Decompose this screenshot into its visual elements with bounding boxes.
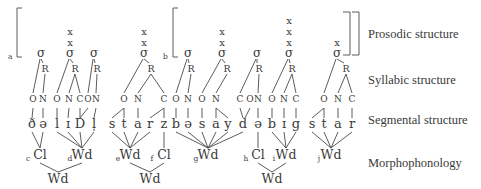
morpho-subscript: c [26,154,30,163]
syllable-node: σ [37,46,45,60]
nucleus-node: N [334,94,342,104]
onset-node: O [29,94,36,104]
onset-node: O [84,94,91,104]
tree-edge [338,74,346,93]
coda-node: C [77,94,84,104]
morpho-node-cl: Cl [251,147,265,162]
syllable-node: σ [140,46,148,60]
tree-edge [346,74,352,93]
segment: a [134,116,142,131]
morpho-subscript: g [194,154,199,163]
level-labels: Prosodic structure Syllabic structure Se… [368,27,468,170]
tree-edge [130,132,150,148]
coda-node: C [161,94,168,104]
nucleus-node: N [65,94,73,104]
tree-edge [57,132,82,148]
morpho-subscript: d [68,154,73,163]
rhyme-node: R [255,63,263,74]
rhyme-node: R [71,63,79,74]
segment: ɪ [66,116,70,131]
morpho-subscript: e [116,154,121,163]
nucleus-node: N [134,94,142,104]
morpho-subscript: h [244,154,249,163]
segment: s [309,116,316,131]
grid-mark: x [141,26,147,37]
label-segmental-structure: Segmental structure [368,113,468,127]
rhyme-node: R [187,63,195,74]
morpho-node-wd: Wd [321,147,342,162]
morpho-node-cl: Cl [157,147,171,162]
tree-edge [202,59,221,93]
word-node: Wd [140,171,161,186]
label-morphophonology: Morphophonology [368,156,463,170]
syntax-tree: ðəlɪDl̩starzbəsaydəbɪgstarσRONσxxRONCσRO… [26,15,356,186]
segment: t [121,116,127,131]
segment: a [334,116,342,131]
tree-edge [130,132,138,148]
rhyme-node: R [147,63,155,74]
tree-edge [208,132,216,148]
nucleus-node: N [39,94,47,104]
coda-node: C [349,94,356,104]
tree-edge [69,74,75,93]
segment: ɪ [282,116,286,131]
tree-edge [176,59,187,93]
tree-edge [88,59,93,93]
onset-node: C [237,94,244,104]
segment: s [199,116,206,131]
bracket-b [173,8,178,57]
tree-edge [43,74,45,93]
segment: ə [184,116,192,131]
onset-node: O [320,94,327,104]
panel-letter-a: a [8,52,13,61]
segment: r [349,116,356,131]
syllable-node: σ [184,46,192,60]
syllable-node: σ [218,46,226,60]
segment: d [239,116,247,131]
onset-node: O [172,94,179,104]
tree-edge [286,132,296,148]
nucleus-node: N [280,94,288,104]
onset-node: O [198,94,205,104]
rhyme-node: R [288,63,296,74]
morpho-subscript: j [317,154,320,163]
onset-node: O [53,94,60,104]
tree-edge [58,163,82,172]
segment: ə [39,116,47,131]
segment: t [321,116,327,131]
tree-edge [284,74,292,93]
onset-node: O [120,94,127,104]
tree-edge [138,74,151,93]
nucleus-node: N [212,94,220,104]
syllable-node: σ [333,46,341,60]
grid-mark: x [219,37,225,48]
morpho-node-wd: Wd [198,147,219,162]
grid-mark: x [286,15,292,26]
segment: b [268,116,276,131]
tree-edge [40,132,43,148]
tree-edge [32,132,40,148]
segment: l̩ [92,116,96,131]
morpho-node-cl: Cl [33,147,47,162]
tree-edge [312,132,331,148]
panel-letter-b: b [163,52,168,61]
segment: b [172,116,180,131]
morpho-subscript: f [151,154,155,163]
tree-edge [96,74,97,93]
label-syllabic-structure: Syllabic structure [368,73,456,87]
nucleus-node: N [254,94,262,104]
onset-node: O [246,94,253,104]
bracket-right-outer [352,12,359,55]
label-prosodic-structure: Prosodic structure [368,27,459,41]
tree-edge [240,59,256,93]
segment: z [161,116,168,131]
tree-edge [82,132,94,148]
bracket-right-inner [343,12,350,55]
grid-mark: x [219,26,225,37]
tree-edge [292,74,296,93]
diagram-canvas: a b ðəlɪDl̩starzbəsaydəbɪgstarσRONσxxRON… [0,0,481,189]
morpho-node-wd: Wd [276,147,297,162]
rhyme-node: R [223,63,231,74]
tree-edge [216,74,227,93]
tree-edge [188,74,191,93]
